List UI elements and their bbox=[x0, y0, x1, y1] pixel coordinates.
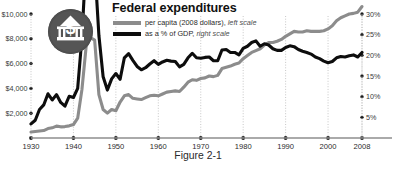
right-axis-tick-dot bbox=[360, 33, 363, 36]
dollar-capitol-badge-icon: $ bbox=[48, 9, 93, 54]
right-axis-tick-label: 10% bbox=[366, 92, 381, 101]
legend-label-pct-gdp-main: as a % of GDP, bbox=[145, 29, 194, 38]
chart-legend: per capita (2008 dollars), left scale as… bbox=[113, 18, 257, 40]
figure-container: 193019401950196019701980199020002008$2,0… bbox=[0, 0, 396, 171]
legend-item-per-capita: per capita (2008 dollars), left scale bbox=[113, 18, 257, 28]
left-axis-tick-label: $6,000 bbox=[6, 59, 28, 68]
legend-swatch-per-capita bbox=[113, 21, 141, 25]
legend-item-pct-gdp: as a % of GDP, right scale bbox=[113, 29, 257, 39]
figure-caption: Figure 2-1 bbox=[0, 150, 396, 161]
legend-label-per-capita-scale: left scale bbox=[228, 18, 257, 27]
right-axis-tick-label: 15% bbox=[366, 72, 381, 81]
legend-label-pct-gdp: as a % of GDP, right scale bbox=[145, 30, 230, 38]
left-axis-tick-label: $2,000 bbox=[6, 109, 28, 118]
left-axis-tick-label: $4,000 bbox=[6, 84, 28, 93]
legend-label-per-capita: per capita (2008 dollars), left scale bbox=[145, 19, 257, 27]
legend-swatch-pct-gdp bbox=[113, 32, 141, 37]
right-axis-tick-label: 20% bbox=[366, 51, 381, 60]
left-axis-tick-label: $10,000 bbox=[2, 10, 28, 19]
right-axis-tick-label: 5% bbox=[366, 113, 377, 122]
left-axis-tick-label: $8,000 bbox=[6, 34, 28, 43]
right-axis-tick-label: 30% bbox=[366, 10, 381, 19]
page-title: Federal expenditures bbox=[112, 2, 237, 15]
legend-label-pct-gdp-scale: right scale bbox=[196, 29, 229, 38]
legend-label-per-capita-main: per capita (2008 dollars), bbox=[145, 18, 226, 27]
right-axis-tick-label: 25% bbox=[366, 30, 381, 39]
svg-text:$: $ bbox=[65, 18, 75, 38]
